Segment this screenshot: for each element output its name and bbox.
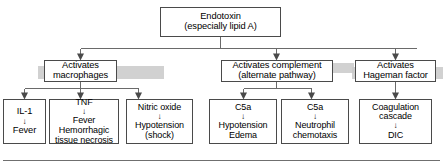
node-coagulation-line-4: DIC [388, 131, 403, 141]
node-nitric-oxide-line-1: Nitric oxide [138, 103, 181, 113]
node-activates-hageman-factor: Activates Hageman factor [355, 60, 436, 82]
bottom-divider [3, 160, 440, 161]
node-nitric-oxide-line-4: (shock) [145, 131, 174, 141]
node-c5a-chemotaxis-line-1: C5a [307, 103, 323, 113]
node-coagulation-cascade-dic: Coagulation cascade ↓ DIC [359, 99, 432, 144]
node-activates-complement: Activates complement (alternate pathway) [221, 60, 333, 82]
node-nitric-oxide-hypotension: Nitric oxide ↓ Hypotension (shock) [126, 99, 193, 144]
node-c5a-edema-line-1: C5a [235, 103, 251, 113]
node-tnf-effects: TNF ↓ Fever Hemorrhagic tissue necrosis [49, 99, 119, 144]
node-endotoxin: Endotoxin (especially lipid A) [160, 7, 281, 37]
node-activates-complement-line-2: (alternate pathway) [238, 71, 316, 81]
node-tnf-effects-line-5: tissue necrosis [55, 136, 113, 146]
node-c5a-hypotension-edema: C5a ↓ Hypotension Edema [209, 99, 277, 144]
node-activates-hageman-factor-line-2: Hageman factor [363, 71, 428, 81]
node-activates-macrophages: Activates macrophages [44, 60, 117, 82]
node-il-1-fever: IL-1 ↓ Fever [3, 99, 46, 144]
node-activates-macrophages-line-2: macrophages [53, 71, 108, 81]
node-endotoxin-line-2: (especially lipid A) [184, 22, 256, 32]
flowchart-diagram: Endotoxin (especially lipid A) Activates… [0, 0, 443, 167]
node-c5a-chemotaxis-line-4: chemotaxis [293, 131, 338, 141]
node-c5a-edema-line-4: Edema [229, 131, 257, 141]
node-c5a-neutrophil-chemotaxis: C5a ↓ Neutrophil chemotaxis [281, 99, 349, 144]
node-il-1-fever-line-3: Fever [13, 126, 36, 136]
node-il-1-fever-line-1: IL-1 [17, 107, 33, 117]
